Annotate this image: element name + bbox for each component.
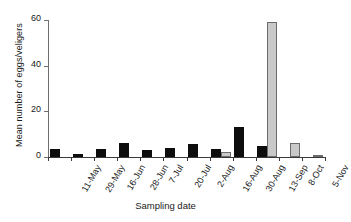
bar-eggs (119, 143, 129, 157)
x-tick-label: 28-Jun (148, 163, 170, 192)
x-tick-label: 8-Oct (306, 163, 326, 187)
bar-eggs (142, 150, 152, 157)
x-tick-label: 2-Aug (215, 163, 236, 189)
x-tick-mark (94, 157, 95, 161)
x-tick-label: 20-Jul (192, 163, 213, 189)
x-tick-label: 7-Jul (167, 163, 185, 185)
bar-slot (140, 20, 163, 157)
x-tick-mark (117, 157, 118, 161)
x-tick-mark (279, 157, 280, 161)
y-axis-title: Mean number of eggs/veligers (14, 10, 24, 160)
bar-eggs (96, 149, 106, 157)
bar-slot (279, 20, 302, 157)
x-tick-mark (140, 157, 141, 161)
x-tick-mark (233, 157, 234, 161)
plot-area: 0204060 (48, 20, 325, 157)
x-axis-title: Sampling date (0, 200, 331, 211)
y-tick-label: 0 (36, 150, 41, 160)
y-tick-label: 20 (31, 104, 41, 114)
y-tick-label: 40 (31, 59, 41, 69)
bar-eggs (165, 148, 175, 157)
x-tick-mark (325, 157, 326, 161)
bar-slot (48, 20, 71, 157)
x-tick-label: 16-Jun (124, 163, 146, 192)
x-tick-mark (71, 157, 72, 161)
bar-eggs (188, 144, 198, 157)
bar-slot (302, 20, 325, 157)
x-tick-mark (163, 157, 164, 161)
bar-slot (233, 20, 256, 157)
x-tick-mark (48, 157, 49, 161)
x-tick-mark (302, 157, 303, 161)
bar-eggs (50, 149, 60, 157)
bar-slot (71, 20, 94, 157)
bar-veligers (267, 22, 277, 157)
bar-slot (256, 20, 279, 157)
bar-eggs (211, 149, 221, 157)
x-tick-label: 5-Nov (330, 163, 351, 189)
x-tick-label: 13-Sep (287, 163, 310, 193)
bar-slot (117, 20, 140, 157)
bar-eggs (73, 154, 83, 157)
x-tick-label: 16-Aug (241, 163, 264, 193)
x-tick-label: 11-May (79, 163, 102, 193)
x-tick-mark (256, 157, 257, 161)
x-tick-mark (187, 157, 188, 161)
bar-veligers (313, 155, 323, 157)
bar-slot (187, 20, 210, 157)
bar-slot (210, 20, 233, 157)
x-tick-label: 30-Aug (264, 163, 287, 193)
y-tick-label: 60 (31, 13, 41, 23)
bar-veligers (221, 152, 231, 157)
bar-eggs (234, 127, 244, 157)
bar-slot (94, 20, 117, 157)
x-tick-mark (210, 157, 211, 161)
bar-veligers (290, 143, 300, 157)
bar-slot (163, 20, 186, 157)
bar-eggs (257, 146, 267, 157)
x-tick-label: 29-May (103, 163, 127, 194)
